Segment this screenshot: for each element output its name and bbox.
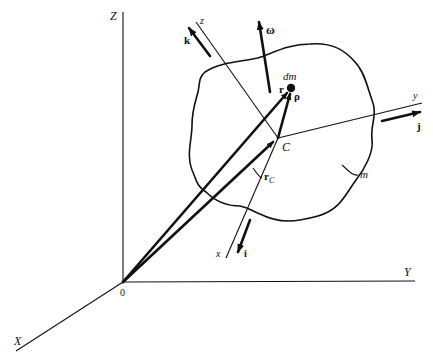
j-label: j: [416, 120, 421, 132]
j-vector-arrow: [382, 112, 420, 121]
mass-label-leader: [342, 165, 358, 175]
rC-label: rC: [264, 170, 275, 185]
Y-axis: [123, 281, 415, 282]
X-axis-label: X: [13, 334, 22, 348]
body-mass-label: m: [360, 168, 368, 180]
body-y-label: y: [412, 90, 418, 101]
body-y-axis: [278, 103, 422, 138]
rigid-body-kinematics-diagram: Z Y X 0 m z y x k j i ω r ρ rC dm: [0, 0, 433, 364]
r-vector: [123, 93, 287, 282]
inertial-axes: Z Y X 0: [13, 9, 415, 351]
mass-element-label: dm: [283, 70, 297, 82]
unit-vectors: k j i: [184, 28, 421, 259]
rC-vector: [123, 142, 273, 282]
X-axis: [16, 282, 123, 351]
body-z-label: z: [199, 15, 204, 26]
Z-axis-label: Z: [110, 9, 117, 23]
rC-label-subscript: C: [269, 176, 275, 185]
position-vectors: r ρ rC: [123, 83, 300, 282]
origin-label: 0: [120, 287, 125, 298]
body-x-label: x: [215, 248, 221, 259]
k-vector-arrow: [189, 28, 210, 56]
body-z-axis: [196, 22, 278, 138]
body-axes: z y x: [196, 15, 422, 259]
mass-element-dot: [287, 84, 295, 92]
omega-label: ω: [266, 23, 275, 37]
Y-axis-label: Y: [404, 265, 412, 279]
rho-label: ρ: [294, 90, 300, 102]
i-label: i: [244, 248, 247, 259]
center-of-mass-label: C: [282, 140, 291, 154]
r-label: r: [279, 83, 284, 95]
k-label: k: [184, 34, 191, 46]
rC-label-leader: [253, 168, 262, 178]
